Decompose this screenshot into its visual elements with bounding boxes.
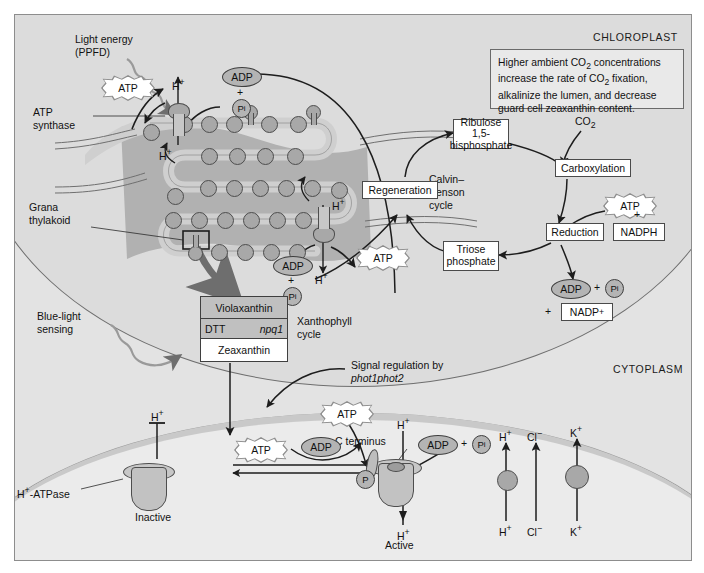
note-line-4: guard cell zeaxanthin content.: [498, 102, 676, 116]
k-ion-label-channel-bottom: K+: [570, 523, 582, 538]
nadp-plus-box: NADP+: [561, 303, 613, 321]
diagram-frame: CHLOROPLAST CYTOPLASM Higher ambient CO2…: [14, 14, 692, 561]
adp-ellipse-calvin: ADP: [551, 279, 591, 299]
plus-sign: +: [594, 281, 600, 293]
cytoplasm-label: CYTOPLASM: [613, 363, 683, 375]
pi-circle-top: Pi: [232, 99, 251, 118]
pi-circle-pump: Pi: [472, 435, 491, 454]
regeneration-box: Regeneration: [362, 181, 438, 199]
h-ion-label-active-pump-top: H+: [397, 416, 410, 431]
adp-ellipse-thylakoid: ADP: [273, 256, 313, 276]
dtt-label: DTT: [205, 323, 225, 335]
co2-label-calvin: CO2: [575, 115, 596, 131]
h-ion-label-inactive-pump: H+: [151, 408, 164, 423]
h-ion-label-right-out: H+: [315, 271, 328, 286]
diagram-canvas: CHLOROPLAST CYTOPLASM Higher ambient CO2…: [0, 0, 704, 573]
grana-thylakoid-label: Granathylakoid: [29, 201, 70, 227]
ribulose-bisphosphate-box: Ribulose 1,5-bisphosphate: [453, 119, 509, 149]
k-ion-label-channel-top: K+: [570, 424, 582, 439]
atp-burst-pump-right: ATP: [320, 401, 374, 427]
atp-label: ATP: [322, 403, 373, 426]
atp-burst-thylakoid-right: ATP: [356, 245, 410, 271]
cl-ion-label-channel-bottom: Cl−: [527, 523, 542, 538]
blue-light-sensing-label: Blue-lightsensing: [37, 310, 81, 336]
h-ion-label-channel-top: H+: [499, 428, 512, 443]
co2-note-box: Higher ambient CO2 concentrations increa…: [490, 49, 684, 109]
xanthophyll-cycle-box: Violaxanthin DTT npq1 Zeaxanthin: [200, 296, 288, 362]
plus-sign: +: [461, 437, 467, 449]
xanthophyll-cycle-label: Xanthophyllcycle: [297, 315, 352, 341]
npq1-label: npq1: [260, 323, 283, 335]
h-atpase-inactive-body: [131, 467, 167, 511]
plus-sign-nadph: +: [634, 208, 640, 220]
violaxanthin-row: Violaxanthin: [201, 297, 287, 319]
plus-sign: +: [237, 86, 243, 98]
h-atpase-label: H+-ATPase: [17, 485, 70, 500]
plus-sign: +: [288, 274, 294, 286]
h-ion-label-right-in: H+: [332, 197, 345, 212]
atp-label: ATP: [358, 247, 409, 270]
signal-regulation-label: Signal regulation byphot1phot2: [351, 359, 443, 385]
atp-label: ATP: [103, 77, 154, 100]
atp-synthase-label: ATPsynthase: [33, 106, 75, 132]
h-ion-label-channel-bottom: H+: [499, 523, 512, 538]
h-ion-label-synthase-out: H+: [172, 77, 185, 92]
c-terminus-label: C terminus: [335, 435, 386, 448]
atp-synthase-right-stalk: [318, 207, 330, 229]
atp-label: ATP: [236, 439, 287, 462]
cl-ion-label-channel-top: Cl−: [527, 428, 542, 443]
reduction-box: Reduction: [546, 223, 604, 241]
k-ion-channel: [565, 465, 589, 489]
atp-synthase-left-stalk: [173, 114, 185, 136]
note-line-1: Higher ambient CO2 concentrations: [498, 56, 676, 72]
h-ion-label-active-pump-bottom: H+: [397, 527, 410, 542]
h-atpase-pore: [387, 462, 405, 472]
atp-burst-left: ATP: [101, 75, 155, 101]
pi-circle-calvin: Pi: [605, 279, 624, 298]
adp-ellipse-top: ADP: [222, 67, 262, 87]
note-line-3: alkalinize the lumen, and decrease: [498, 89, 676, 103]
plus-sign-nadp: +: [545, 305, 551, 317]
atp-burst-pump-left: ATP: [234, 437, 288, 463]
adp-ellipse-pump-left: ADP: [301, 437, 341, 457]
carboxylation-box: Carboxylation: [555, 159, 631, 177]
atp-synthase-right: [313, 227, 335, 243]
chloroplast-label: CHLOROPLAST: [593, 31, 678, 43]
h-ion-label-synthase-in: H+: [159, 147, 172, 162]
adp-ellipse-pump-right: ADP: [418, 435, 458, 455]
inactive-label: Inactive: [135, 511, 171, 524]
h-ion-channel: [497, 470, 518, 491]
light-energy-label: Light energy(PPFD): [75, 33, 133, 59]
nadph-box: NADPH: [613, 223, 665, 241]
zeaxanthin-row: Zeaxanthin: [201, 339, 287, 361]
triose-phosphate-box: Triosephosphate: [443, 241, 499, 271]
phospho-circle: P: [356, 470, 375, 489]
note-line-2: increase the rate of CO2 fixation,: [498, 72, 676, 88]
dtt-npq1-row: DTT npq1: [201, 319, 287, 339]
